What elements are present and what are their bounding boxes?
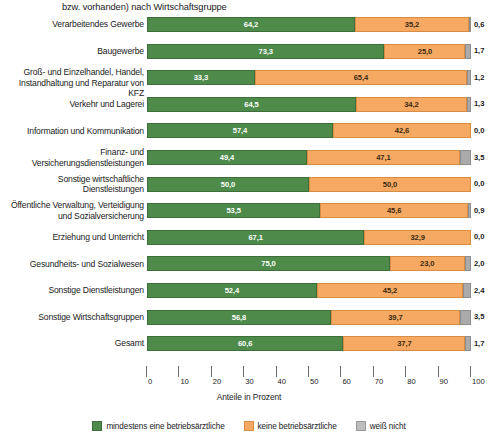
segment-value-label: 1,7 (463, 47, 473, 56)
category-label: Gesamt (2, 338, 144, 348)
tick-mark (405, 366, 406, 377)
segment-weiss-nicht: 1,2 (467, 70, 471, 85)
segment-value-label: 25,0 (418, 47, 432, 56)
segment-value-label: 73,3 (259, 47, 273, 56)
segment-keine: 35,2 (355, 17, 469, 32)
segment-value-label: 64,5 (244, 100, 258, 109)
category-label: Verkehr und Lagerei (2, 99, 144, 109)
segment-keine: 47,1 (307, 150, 460, 165)
segment-weiss-nicht: 1,7 (465, 44, 471, 59)
chart-legend: mindestens eine betriebsärztlichekeine b… (0, 421, 498, 431)
segment-mindestens-eine: 49,4 (147, 150, 307, 165)
category-label: Verarbeitendes Gewerbe (2, 19, 144, 29)
segment-value-label: 37,7 (397, 339, 411, 348)
segment-value-label: 67,1 (249, 233, 263, 242)
segment-value-label: 64,2 (244, 20, 258, 29)
segment-value-label: 42,6 (395, 126, 409, 135)
category-label: Erziehung und Unterricht (2, 232, 144, 242)
category-label: Information und Kommunikation (2, 126, 144, 136)
tick-mark (438, 366, 439, 377)
segment-value-label: 2,0 (463, 259, 473, 268)
tick-label: 30 (245, 377, 253, 386)
stacked-bar: 73,325,01,7 (146, 43, 472, 60)
segment-mindestens-eine: 64,2 (147, 17, 355, 32)
segment-value-label: 35,2 (405, 20, 419, 29)
stacked-bar: 49,447,13,5 (146, 149, 472, 166)
tick-label: 10 (180, 377, 188, 386)
category-label: Gesundheits- und Sozialwesen (2, 259, 144, 269)
segment-value-label: 50,0 (383, 180, 397, 189)
chart-row: Baugewerbe73,325,01,71,7 (0, 44, 498, 59)
weiss-nicht-value-label: 3,5 (474, 153, 484, 162)
stacked-bar: 75,023,02,0 (146, 255, 472, 272)
weiss-nicht-value-label: 1,2 (474, 73, 484, 82)
legend-label: weiß nicht (370, 422, 406, 431)
chart-row: Information und Kommunikation57,442,60,0 (0, 123, 498, 138)
segment-keine: 39,7 (331, 310, 460, 325)
segment-value-label: 50,0 (221, 180, 235, 189)
tick-mark (308, 366, 309, 377)
tick-label: 40 (278, 377, 286, 386)
tick-mark (243, 366, 244, 377)
segment-mindestens-eine: 67,1 (147, 230, 364, 245)
weiss-nicht-value-label: 0,0 (474, 232, 484, 241)
segment-mindestens-eine: 53,5 (147, 203, 320, 218)
segment-weiss-nicht: 3,5 (460, 310, 471, 325)
segment-value-label: 2,4 (462, 286, 472, 295)
segment-mindestens-eine: 33,3 (147, 70, 255, 85)
segment-value-label: 56,8 (232, 313, 246, 322)
tick-mark (470, 366, 471, 377)
segment-value-label: 1,7 (463, 339, 473, 348)
tick-label: 60 (342, 377, 350, 386)
legend-item[interactable]: weiß nicht (356, 421, 406, 431)
segment-mindestens-eine: 73,3 (147, 44, 384, 59)
chart-title: bzw. vorhanden) nach Wirtschaftsgruppe (62, 1, 227, 13)
segment-keine: 45,6 (320, 203, 468, 218)
segment-keine: 50,0 (309, 177, 471, 192)
chart-row: Sonstige Wirtschaftsgruppen56,839,73,53,… (0, 310, 498, 325)
segment-weiss-nicht: 2,4 (463, 283, 471, 298)
weiss-nicht-value-label: 1,7 (474, 46, 484, 55)
chart-row: Gesundheits- und Sozialwesen75,023,02,02… (0, 256, 498, 271)
tick-mark (211, 366, 212, 377)
legend-label: keine betriebsärztliche (258, 422, 337, 431)
legend-swatch-gray-icon (356, 421, 366, 431)
segment-value-label: 52,4 (225, 286, 239, 295)
segment-mindestens-eine: 75,0 (147, 256, 390, 271)
segment-value-label: 47,1 (376, 153, 390, 162)
legend-item[interactable]: keine betriebsärztliche (244, 421, 337, 431)
segment-weiss-nicht: 2,0 (465, 256, 471, 271)
stacked-bar: 50,050,0 (146, 176, 472, 193)
tick-label: 20 (213, 377, 221, 386)
category-label: Finanz- und Versicherungsdienstleistunge… (2, 147, 144, 168)
segment-value-label: 57,4 (233, 126, 247, 135)
tick-label: 90 (440, 377, 448, 386)
tick-label: 0 (148, 377, 152, 386)
weiss-nicht-value-label: 1,7 (474, 339, 484, 348)
stacked-bar: 57,442,6 (146, 122, 472, 139)
chart-row: Verkehr und Lagerei64,534,21,31,3 (0, 97, 498, 112)
segment-value-label: 60,6 (238, 339, 252, 348)
segment-keine: 45,2 (317, 283, 463, 298)
segment-keine: 32,9 (364, 230, 471, 245)
chart-row: Groß- und Einzelhandel, Handel, Instandh… (0, 70, 498, 85)
segment-mindestens-eine: 52,4 (147, 283, 317, 298)
segment-mindestens-eine: 60,6 (147, 336, 343, 351)
segment-weiss-nicht: 0,9 (468, 203, 471, 218)
legend-item[interactable]: mindestens eine betriebsärztliche (92, 421, 224, 431)
tick-mark (178, 366, 179, 377)
stacked-bar: 60,637,71,7 (146, 335, 472, 352)
segment-weiss-nicht: 3,5 (460, 150, 471, 165)
x-axis-title: Anteile in Prozent (0, 392, 498, 402)
weiss-nicht-value-label: 0,6 (474, 20, 484, 29)
category-label: Öffentliche Verwaltung, Verteidigung und… (2, 200, 144, 221)
chart-row: Öffentliche Verwaltung, Verteidigung und… (0, 203, 498, 218)
stacked-bar: 33,365,41,2 (146, 69, 472, 86)
category-label: Sonstige Dienstleistungen (2, 285, 144, 295)
chart-row: Finanz- und Versicherungsdienstleistunge… (0, 150, 498, 165)
weiss-nicht-value-label: 0,0 (474, 126, 484, 135)
weiss-nicht-value-label: 1,3 (474, 99, 484, 108)
category-label: Sonstige Wirtschaftsgruppen (2, 312, 144, 322)
legend-swatch-green-icon (92, 421, 102, 431)
weiss-nicht-value-label: 2,0 (474, 259, 484, 268)
